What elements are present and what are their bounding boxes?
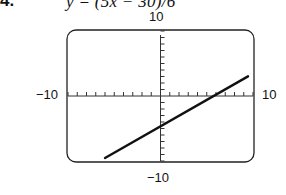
calculator-graph	[0, 0, 286, 195]
graph-line	[105, 76, 248, 158]
axes	[68, 31, 253, 161]
